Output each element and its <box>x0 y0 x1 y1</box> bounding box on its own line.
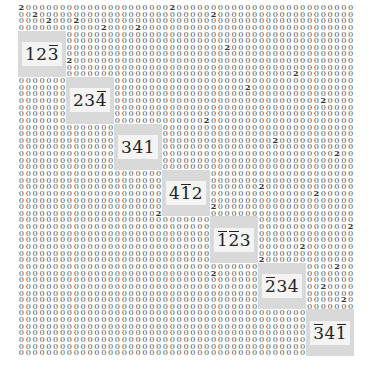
digit: 2 <box>36 44 47 64</box>
digit: 4 <box>132 137 143 157</box>
matrix-cell: 0 <box>39 349 46 356</box>
matrix-cell: 0 <box>299 256 306 263</box>
matrix-cell: 0 <box>25 24 32 31</box>
matrix-cell: 0 <box>203 163 210 170</box>
matrix-cell: 0 <box>141 117 148 124</box>
matrix-cell: 0 <box>59 24 66 31</box>
matrix-cell: 0 <box>258 349 265 356</box>
digit: 4 <box>169 183 180 203</box>
matrix-cell: 0 <box>183 349 190 356</box>
matrix-cell: 0 <box>162 163 169 170</box>
matrix-cell: 0 <box>148 349 155 356</box>
digit: 1 <box>144 137 155 157</box>
barred-digit: 1 <box>336 323 347 343</box>
matrix-cell: 0 <box>45 24 52 31</box>
barred-digit: 2 <box>265 276 276 296</box>
digit: 3 <box>276 276 287 296</box>
block-label: 234 <box>70 88 110 112</box>
matrix-cell: 0 <box>196 349 203 356</box>
matrix-cell: 0 <box>59 349 66 356</box>
matrix-cell: 0 <box>121 117 128 124</box>
digit: 2 <box>192 183 203 203</box>
barred-digit: 3 <box>313 323 324 343</box>
matrix-cell: 0 <box>148 117 155 124</box>
matrix-cell: 0 <box>347 303 354 310</box>
matrix-cell: 0 <box>286 256 293 263</box>
block-label: 412 <box>166 181 206 205</box>
matrix-cell: 0 <box>251 210 258 217</box>
matrix-cell: 0 <box>52 24 59 31</box>
matrix-cell: 0 <box>279 256 286 263</box>
matrix-cell: 0 <box>292 349 299 356</box>
matrix-cell: 0 <box>18 24 25 31</box>
matrix-cell: 0 <box>279 349 286 356</box>
matrix-cell: 0 <box>176 163 183 170</box>
matrix-cell: 0 <box>183 163 190 170</box>
matrix-cell: 0 <box>155 349 162 356</box>
barred-digit: 1 <box>217 230 228 250</box>
matrix-cell: 0 <box>224 349 231 356</box>
matrix-cell: 0 <box>190 349 197 356</box>
matrix-cell: 2 <box>258 256 265 263</box>
matrix-cell: 0 <box>313 303 320 310</box>
matrix-cell: 0 <box>114 117 121 124</box>
matrix-cell: 0 <box>169 163 176 170</box>
digit: 3 <box>84 90 95 110</box>
matrix-cell: 0 <box>141 349 148 356</box>
matrix-cell: 0 <box>100 70 107 77</box>
matrix-cell: 0 <box>244 349 251 356</box>
matrix-cell: 0 <box>73 349 80 356</box>
matrix-cell: 0 <box>334 303 341 310</box>
matrix-cell: 0 <box>135 349 142 356</box>
matrix-cell: 0 <box>93 70 100 77</box>
matrix-cell: 0 <box>320 303 327 310</box>
matrix-cell: 0 <box>238 210 245 217</box>
matrix-cell: 0 <box>52 349 59 356</box>
matrix-cell: 0 <box>32 24 39 31</box>
matrix-cell: 0 <box>107 349 114 356</box>
matrix-cell: 0 <box>169 349 176 356</box>
diagonal-block: 234 <box>258 263 306 309</box>
matrix-cell: 0 <box>128 117 135 124</box>
matrix-cell: 0 <box>135 117 142 124</box>
matrix-cell: 0 <box>299 349 306 356</box>
barred-digit: 1 <box>180 183 191 203</box>
matrix-cell: 0 <box>45 349 52 356</box>
diagonal-block: 412 <box>162 170 210 216</box>
matrix-cell: 0 <box>210 349 217 356</box>
matrix-cell: 0 <box>210 210 217 217</box>
matrix-cell: 0 <box>327 303 334 310</box>
diagonal-block: 341 <box>114 124 162 170</box>
block-label: 341 <box>118 135 158 159</box>
matrix-cell: 0 <box>238 349 245 356</box>
matrix-cell: 0 <box>265 256 272 263</box>
matrix-cell: 0 <box>93 349 100 356</box>
matrix-cell: 0 <box>87 349 94 356</box>
matrix-cell: 0 <box>292 256 299 263</box>
matrix-cell: 0 <box>32 349 39 356</box>
diagonal-block: 123 <box>18 31 66 77</box>
matrix-cell: 0 <box>306 303 313 310</box>
block-label: 123 <box>214 228 254 252</box>
digit: 4 <box>288 276 299 296</box>
matrix-cell: 0 <box>18 349 25 356</box>
matrix-cell: 0 <box>231 210 238 217</box>
matrix-cell: 0 <box>25 349 32 356</box>
barred-digit: 2 <box>228 230 239 250</box>
sparse-matrix-grid: 2000000000000000000000200000000000000000… <box>18 4 354 356</box>
matrix-cell: 0 <box>66 70 73 77</box>
block-label: 234 <box>262 274 302 298</box>
digit: 1 <box>25 44 36 64</box>
matrix-cell: 0 <box>128 349 135 356</box>
barred-digit: 4 <box>96 90 107 110</box>
matrix-cell: 0 <box>244 210 251 217</box>
matrix-cell: 0 <box>121 349 128 356</box>
matrix-cell: 0 <box>196 163 203 170</box>
matrix-cell: 0 <box>155 117 162 124</box>
matrix-cell: 0 <box>286 349 293 356</box>
block-label: 123 <box>22 42 62 66</box>
matrix-cell: 0 <box>80 70 87 77</box>
matrix-cell: 0 <box>251 349 258 356</box>
matrix-cell: 0 <box>80 349 87 356</box>
matrix-cell: 0 <box>203 349 210 356</box>
